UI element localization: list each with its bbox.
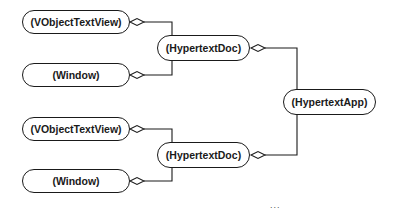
node-vobjecttextview-top: (VObjectTextView) bbox=[22, 10, 130, 34]
node-hypertextapp: (HypertextApp) bbox=[283, 89, 376, 115]
connector-line bbox=[144, 129, 172, 143]
aggregation-diamond-icon bbox=[130, 126, 144, 133]
node-hypertextdoc-bottom: (HypertextDoc) bbox=[157, 142, 250, 168]
node-hypertextdoc-top: (HypertextDoc) bbox=[157, 35, 250, 61]
aggregation-diamond-icon bbox=[130, 72, 144, 79]
node-window-bottom: (Window) bbox=[22, 169, 130, 193]
connector-line bbox=[265, 115, 297, 155]
node-vobjecttextview-bottom: (VObjectTextView) bbox=[22, 117, 130, 141]
connector-line bbox=[265, 48, 297, 90]
continuation-ellipsis: ... bbox=[270, 200, 281, 210]
aggregation-diamond-icon bbox=[130, 19, 144, 26]
connector-line bbox=[144, 60, 172, 75]
aggregation-diamond-icon bbox=[251, 152, 265, 159]
connector-line bbox=[144, 22, 172, 36]
connector-line bbox=[144, 168, 172, 181]
aggregation-diamond-icon bbox=[130, 178, 144, 185]
node-window-top: (Window) bbox=[22, 63, 130, 87]
aggregation-diamond-icon bbox=[251, 45, 265, 52]
